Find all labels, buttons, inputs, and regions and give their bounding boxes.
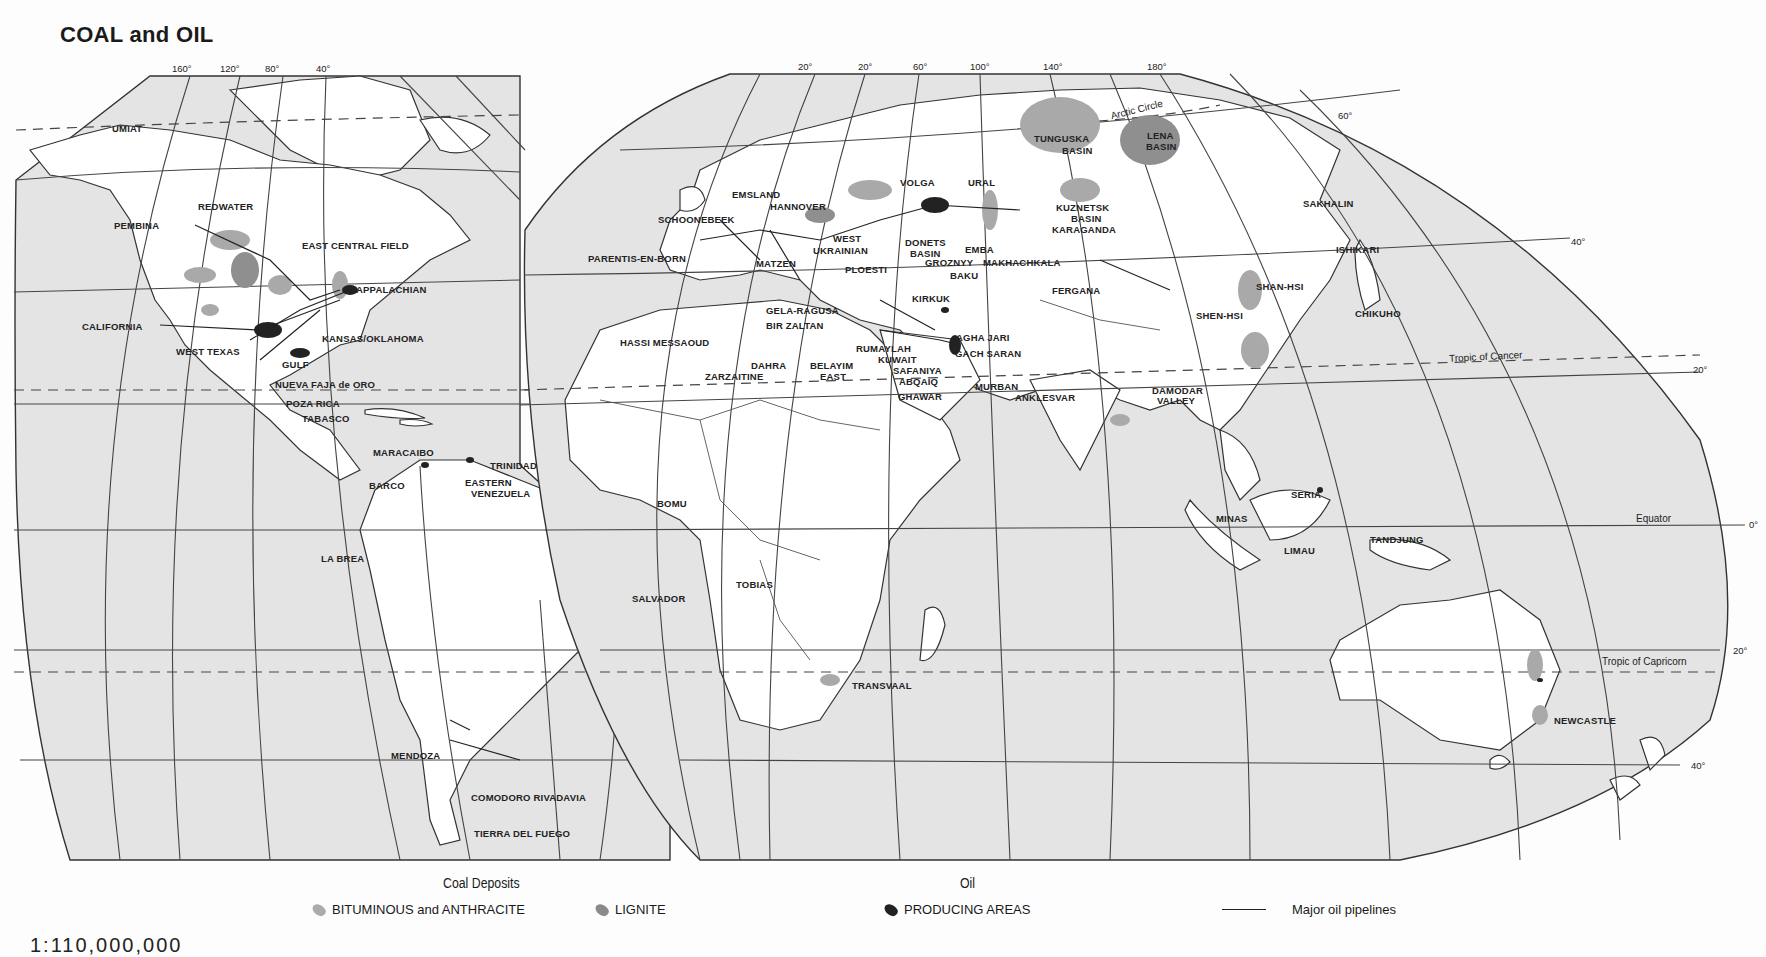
place-label: EAST [820, 372, 846, 382]
legend-item-bituminous: BITUMINOUS and ANTHRACITE [312, 902, 525, 917]
latitude-label: 0° [1749, 519, 1758, 530]
place-label: CALIFORNIA [82, 322, 143, 332]
place-label: SHAN-HSI [1256, 282, 1304, 292]
eurasia-lobe [520, 74, 1745, 860]
place-label: HANNOVER [770, 202, 826, 212]
latitude-label: 20° [1733, 645, 1747, 656]
legend-label: BITUMINOUS and ANTHRACITE [332, 902, 525, 917]
place-label: WEST [833, 234, 861, 244]
place-label: ABQAIQ [899, 377, 938, 387]
place-label: TRINIDAD [490, 461, 537, 471]
tropic-of-capricorn-label: Tropic of Capricorn [1602, 656, 1687, 667]
place-label: TUNGUSKA [1034, 134, 1089, 144]
place-label: PEMBINA [114, 221, 159, 231]
place-label: FERGANA [1052, 286, 1100, 296]
place-label: EASTERN [465, 478, 512, 488]
place-label: COMODORO RIVADAVIA [471, 793, 586, 803]
place-label: TABASCO [302, 414, 350, 424]
place-label: BOMU [657, 499, 687, 509]
place-label: BASIN [1146, 142, 1177, 152]
latitude-label: 20° [1693, 364, 1707, 375]
longitude-label: 60° [913, 61, 927, 72]
place-label: SAKHALIN [1303, 199, 1354, 209]
longitude-label: 20° [858, 61, 872, 72]
place-label: GELA-RAGUSA [766, 306, 839, 316]
place-label: TOBIAS [736, 580, 773, 590]
place-label: PLOESTI [845, 265, 887, 275]
longitude-label: 80° [265, 63, 279, 74]
longitude-label: 20° [798, 61, 812, 72]
longitude-label: 160° [172, 63, 192, 74]
place-label: ZARZAITINE [705, 372, 763, 382]
place-label: SERIA [1291, 490, 1321, 500]
place-label: KANSAS/OKLAHOMA [322, 334, 424, 344]
place-label: CHIKUHO [1355, 309, 1401, 319]
legend-label: Major oil pipelines [1292, 902, 1396, 917]
longitude-label: 40° [316, 63, 330, 74]
place-label: BAKU [950, 271, 978, 281]
place-label: GROZNYY [925, 258, 973, 268]
equator-label: Equator [1636, 513, 1671, 524]
longitude-label: 100° [970, 61, 990, 72]
latitude-label: 60° [1338, 110, 1352, 121]
scale-text: 1:110,000,000 [30, 934, 182, 957]
place-label: EAST CENTRAL FIELD [302, 241, 409, 251]
place-label: ANKLESVAR [1015, 393, 1075, 403]
place-label: GULF [282, 360, 309, 370]
longitude-label: 120° [220, 63, 240, 74]
pipeline-line-icon [1222, 909, 1266, 910]
place-label: LIMAU [1284, 546, 1315, 556]
place-label: BIR ZALTAN [766, 321, 824, 331]
place-label: MENDOZA [391, 751, 440, 761]
place-label: BARCO [369, 481, 405, 491]
place-label: AGHA JARI [956, 333, 1010, 343]
place-label: VALLEY [1157, 396, 1195, 406]
place-label: RUMAYLAH [856, 344, 911, 354]
place-label: VOLGA [900, 178, 935, 188]
place-label: TRANSVAAL [852, 681, 912, 691]
place-label: MURBAN [975, 382, 1018, 392]
legend-coal-heading: Coal Deposits [443, 875, 520, 891]
place-label: MARACAIBO [373, 448, 434, 458]
place-label: GHAWAR [898, 392, 942, 402]
legend-oil-heading: Oil [960, 875, 975, 891]
legend-item-pipelines: Major oil pipelines [1222, 902, 1396, 917]
place-label: SALVADOR [632, 594, 686, 604]
bituminous-swatch-icon [310, 901, 327, 918]
place-label: EMSLAND [732, 190, 780, 200]
latitude-label: 40° [1691, 760, 1705, 771]
place-label: REDWATER [198, 202, 253, 212]
place-label: NEWCASTLE [1554, 716, 1616, 726]
lignite-swatch-icon [593, 901, 610, 918]
place-label: POZA RICA [286, 399, 340, 409]
place-label: LA BREA [321, 554, 364, 564]
place-label: GACH SARAN [955, 349, 1021, 359]
place-label: TANDJUNG [1370, 535, 1424, 545]
place-label: SAFANIYA [893, 366, 942, 376]
legend-item-producing-areas: PRODUCING AREAS [884, 902, 1030, 917]
place-label: KARAGANDA [1052, 225, 1116, 235]
longitude-label: 180° [1147, 61, 1167, 72]
place-label: DONETS [905, 238, 946, 248]
place-label: UKRAINIAN [813, 246, 868, 256]
place-label: SHEN-HSI [1196, 311, 1243, 321]
place-label: DAHRA [751, 361, 786, 371]
place-label: UMIAT [112, 124, 142, 134]
place-label: NUEVA FAJA de ORO [275, 380, 375, 390]
place-label: APPALACHIAN [356, 285, 427, 295]
place-label: WEST TEXAS [176, 347, 240, 357]
place-label: HASSI MESSAOUD [620, 338, 709, 348]
place-label: BELAYIM [810, 361, 853, 371]
place-label: KUZNETSK [1056, 203, 1109, 213]
place-label: SCHOONEBEEK [658, 215, 735, 225]
longitude-label: 140° [1043, 61, 1063, 72]
place-label: URAL [968, 178, 995, 188]
place-label: BASIN [1062, 146, 1093, 156]
legend-label: LIGNITE [615, 902, 666, 917]
place-label: ISHIKARI [1336, 245, 1379, 255]
latitude-label: 40° [1571, 236, 1585, 247]
place-label: BASIN [1071, 214, 1102, 224]
place-label: LENA [1147, 131, 1174, 141]
place-label: TIERRA DEL FUEGO [474, 829, 570, 839]
place-label: VENEZUELA [471, 489, 530, 499]
